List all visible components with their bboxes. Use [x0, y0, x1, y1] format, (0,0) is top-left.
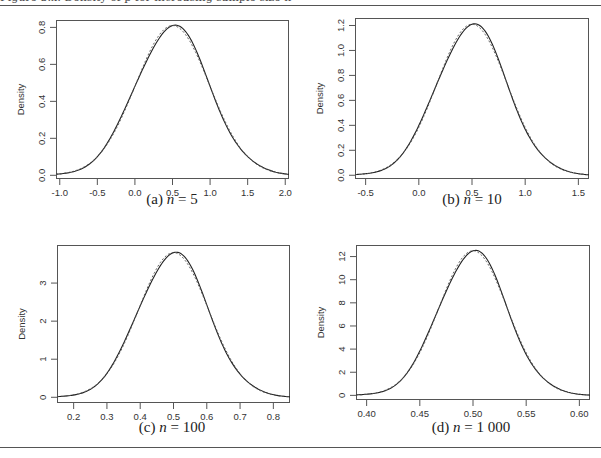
y-tick-label: 12	[336, 251, 347, 262]
y-axis-label: Density	[15, 83, 26, 115]
y-tick-label: 10	[336, 274, 347, 285]
x-tick-label: 0.7	[233, 411, 246, 422]
y-tick-label: 0	[37, 395, 48, 400]
plot-frame	[57, 21, 289, 179]
subfigure-caption-d: (d) n = 1 000	[411, 419, 531, 436]
normal-density-curve	[57, 253, 290, 397]
empirical-density-curve	[356, 250, 590, 395]
y-tick-label: 3	[37, 280, 48, 285]
density-plot-b: 0.00.20.40.60.81.01.2-0.50.00.51.01.5Den…	[355, 18, 589, 179]
subfigure-caption-a: (a) n = 5	[112, 191, 232, 208]
y-tick-label: 2	[336, 370, 347, 375]
y-tick-label: 8	[336, 300, 347, 305]
x-tick-label: 0.8	[267, 411, 280, 422]
empirical-density-curve	[355, 24, 589, 175]
density-plot-c: 01230.20.30.40.50.60.70.8Density	[57, 245, 290, 403]
y-tick-label: 0.2	[36, 132, 47, 145]
y-axis-label: Density	[314, 82, 325, 114]
y-tick-label: 0.6	[335, 94, 346, 107]
subfigure-caption-b: (b) n = 10	[412, 191, 532, 208]
y-tick-label: 0	[336, 393, 347, 398]
normal-density-curve	[56, 26, 289, 175]
x-tick-label: 0.2	[67, 411, 80, 422]
y-tick-label: 0.4	[36, 95, 47, 108]
normal-density-curve	[355, 24, 589, 174]
x-tick-label: 0.45	[411, 408, 430, 419]
bottom-rule	[0, 447, 601, 448]
y-tick-label: 0.6	[36, 58, 47, 71]
x-tick-label: 0.50	[464, 408, 483, 419]
x-tick-label: 0.60	[570, 408, 589, 419]
y-tick-label: 2	[37, 318, 48, 323]
x-tick-label: 1.5	[572, 187, 585, 198]
y-tick-label: 4	[336, 346, 347, 351]
empirical-density-curve	[56, 25, 289, 174]
x-tick-label: -1.0	[52, 187, 68, 198]
empirical-density-curve	[57, 252, 290, 397]
y-axis-label: Density	[16, 308, 27, 340]
y-tick-label: 0.0	[36, 169, 47, 182]
x-tick-label: 0.55	[517, 408, 536, 419]
plot-frame	[356, 19, 589, 179]
y-tick-label: 1	[37, 357, 48, 362]
x-tick-label: -0.5	[357, 187, 373, 198]
plot-frame	[357, 246, 590, 400]
y-tick-label: 0.8	[335, 69, 346, 82]
x-tick-label: 1.5	[241, 187, 254, 198]
normal-density-curve	[356, 251, 590, 395]
x-tick-label: -0.5	[89, 187, 105, 198]
density-plot-d: 0246810120.400.450.500.550.60Density	[356, 245, 590, 400]
y-tick-label: 0.0	[335, 169, 346, 182]
y-tick-label: 0.8	[36, 21, 47, 34]
y-tick-label: 1.0	[335, 44, 346, 57]
figure-top-caption: Figure 3.x: Density of p̂ for increasing…	[0, 0, 291, 4]
y-tick-label: 1.2	[335, 19, 346, 32]
x-tick-label: 0.40	[357, 408, 376, 419]
y-tick-label: 6	[336, 323, 347, 328]
y-tick-label: 0.4	[335, 119, 346, 132]
top-rule	[0, 5, 601, 6]
y-tick-label: 0.2	[335, 144, 346, 157]
x-tick-label: 2.0	[279, 187, 292, 198]
subfigure-caption-c: (c) n = 100	[112, 419, 232, 436]
density-plot-a: 0.00.20.40.60.8-1.0-0.50.00.51.01.52.0De…	[56, 20, 289, 179]
y-axis-label: Density	[315, 306, 326, 338]
plot-frame	[58, 246, 290, 403]
